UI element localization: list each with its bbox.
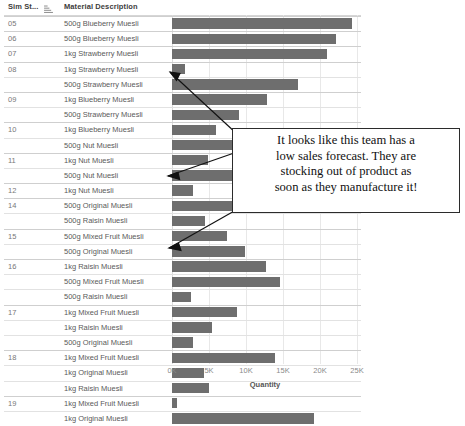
- sort-ascending-icon[interactable]: [44, 5, 53, 13]
- annotation-callout: It looks like this team has a low sales …: [232, 128, 460, 213]
- bar[interactable]: [172, 277, 280, 287]
- cell-sim-status: 18: [8, 353, 56, 362]
- table-row[interactable]: 500g Raisin Muesli: [0, 213, 465, 228]
- row-separator: [4, 62, 361, 63]
- cell-sim-status: 07: [8, 49, 56, 58]
- bar[interactable]: [172, 94, 267, 104]
- row-separator: [4, 31, 361, 32]
- bar[interactable]: [172, 216, 205, 226]
- cell-material-description: 500g Strawberry Muesli: [64, 80, 143, 89]
- table-row[interactable]: 071kg Strawberry Muesli: [0, 46, 465, 61]
- cell-sim-status: 12: [8, 186, 56, 195]
- x-axis-tick: 5K: [204, 366, 213, 375]
- cell-sim-status: 19: [8, 399, 56, 408]
- row-separator: [4, 305, 361, 306]
- table-row[interactable]: 500g Raisin Muesli: [0, 289, 465, 304]
- cell-material-description: 500g Blueberry Muesli: [64, 34, 139, 43]
- bar[interactable]: [172, 18, 352, 28]
- cell-material-description: 1kg Raisin Muesli: [64, 323, 123, 332]
- table-row[interactable]: 500g Original Muesli: [0, 335, 465, 350]
- table-row[interactable]: 15500g Mixed Fruit Muesli: [0, 229, 465, 244]
- cell-material-description: 1kg Strawberry Muesli: [64, 65, 138, 74]
- bar[interactable]: [172, 201, 236, 211]
- annotation-line-3: stocking out of product as: [238, 164, 454, 180]
- bar[interactable]: [172, 155, 208, 165]
- bar[interactable]: [172, 322, 212, 332]
- row-separator: [4, 229, 361, 230]
- row-separator: [4, 289, 361, 290]
- cell-material-description: 500g Raisin Muesli: [64, 216, 127, 225]
- annotation-line-2: low sales forecast. They are: [238, 149, 454, 165]
- cell-material-description: 1kg Raisin Muesli: [64, 262, 123, 271]
- table-row[interactable]: 500g Strawberry Muesli: [0, 77, 465, 92]
- x-axis-title: Quantity: [250, 380, 280, 389]
- bar[interactable]: [172, 307, 237, 317]
- cell-material-description: 500g Nut Muesli: [64, 171, 118, 180]
- cell-sim-status: 09: [8, 95, 56, 104]
- bar[interactable]: [172, 110, 239, 120]
- cell-material-description: 500g Mixed Fruit Muesli: [64, 277, 144, 286]
- cell-material-description: 1kg Strawberry Muesli: [64, 49, 138, 58]
- bar[interactable]: [172, 125, 216, 135]
- table-row[interactable]: 171kg Mixed Fruit Muesli: [0, 305, 465, 320]
- column-header-material-description[interactable]: Material Description: [64, 2, 138, 11]
- cell-sim-status: 05: [8, 19, 56, 28]
- row-separator: [4, 46, 361, 47]
- row-separator: [4, 16, 361, 17]
- table-row[interactable]: 500g Mixed Fruit Muesli: [0, 274, 465, 289]
- x-axis-tick: 20K: [313, 366, 326, 375]
- bar[interactable]: [172, 337, 193, 347]
- cell-material-description: 1kg Blueberry Muesli: [64, 125, 134, 134]
- row-separator: [4, 92, 361, 93]
- row-separator: [4, 259, 361, 260]
- cell-material-description: 500g Blueberry Muesli: [64, 19, 139, 28]
- x-axis-tick: 0K: [167, 366, 176, 375]
- table-row[interactable]: 081kg Strawberry Muesli: [0, 62, 465, 77]
- bar[interactable]: [172, 49, 327, 59]
- bar[interactable]: [172, 34, 336, 44]
- table-row[interactable]: 05500g Blueberry Muesli: [0, 16, 465, 31]
- table-row[interactable]: 500g Strawberry Muesli: [0, 107, 465, 122]
- cell-material-description: 1kg Nut Muesli: [64, 186, 114, 195]
- table-row[interactable]: 06500g Blueberry Muesli: [0, 31, 465, 46]
- cell-sim-status: 11: [8, 156, 56, 165]
- x-axis-tick: 25K: [350, 366, 363, 375]
- cell-material-description: 500g Strawberry Muesli: [64, 110, 143, 119]
- table-row[interactable]: 1kg Raisin Muesli: [0, 320, 465, 335]
- row-separator: [4, 122, 361, 123]
- table-row[interactable]: 161kg Raisin Muesli: [0, 259, 465, 274]
- row-separator: [4, 213, 361, 214]
- bar[interactable]: [172, 413, 314, 423]
- x-axis: Quantity 0K5K10K15K20K25K: [0, 364, 465, 399]
- bar[interactable]: [172, 353, 275, 363]
- row-separator: [4, 335, 361, 336]
- row-separator: [4, 350, 361, 351]
- table-header: Sim St... Material Description: [0, 2, 465, 16]
- x-axis-tick: 10K: [239, 366, 252, 375]
- table-row[interactable]: 500g Original Muesli: [0, 244, 465, 259]
- cell-sim-status: 10: [8, 125, 56, 134]
- table-row[interactable]: 091kg Blueberry Muesli: [0, 92, 465, 107]
- cell-material-description: 1kg Original Muesli: [64, 414, 128, 423]
- table-row[interactable]: 1kg Original Muesli: [0, 411, 465, 426]
- bar[interactable]: [172, 79, 298, 89]
- bar[interactable]: [172, 231, 227, 241]
- bar[interactable]: [172, 64, 185, 74]
- cell-material-description: 1kg Nut Muesli: [64, 156, 114, 165]
- cell-material-description: 500g Raisin Muesli: [64, 292, 127, 301]
- row-separator: [4, 411, 361, 412]
- row-separator: [4, 320, 361, 321]
- cell-sim-status: 15: [8, 232, 56, 241]
- cell-sim-status: 17: [8, 308, 56, 317]
- cell-material-description: 1kg Mixed Fruit Muesli: [64, 399, 139, 408]
- bar[interactable]: [172, 185, 193, 195]
- bar[interactable]: [172, 292, 191, 302]
- bar[interactable]: [172, 170, 232, 180]
- cell-material-description: 500g Original Muesli: [64, 247, 132, 256]
- cell-sim-status: 08: [8, 65, 56, 74]
- bar[interactable]: [172, 398, 177, 408]
- bar[interactable]: [172, 261, 266, 271]
- bar[interactable]: [172, 246, 245, 256]
- cell-material-description: 1kg Mixed Fruit Muesli: [64, 308, 139, 317]
